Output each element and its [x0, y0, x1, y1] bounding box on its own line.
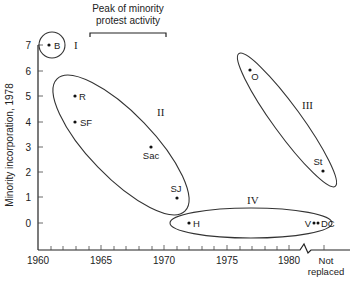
x-tick-1965: 1965 — [90, 255, 113, 266]
x-tick-1975: 1975 — [216, 255, 239, 266]
label-H: H — [193, 218, 200, 229]
point-SF — [73, 120, 76, 123]
point-R — [73, 94, 76, 97]
label-DC: DC — [321, 218, 335, 229]
chart: Peak of minority protest activity 7 6 5 … — [0, 0, 353, 281]
point-SJ — [175, 196, 178, 199]
y-tick-5: 5 — [25, 91, 31, 102]
group-I-label: I — [74, 39, 78, 51]
y-tick-1: 1 — [25, 192, 31, 203]
protest-bracket — [90, 33, 166, 37]
point-B — [47, 43, 50, 46]
y-tick-4: 4 — [25, 117, 31, 128]
label-R: R — [79, 91, 86, 102]
group-II-label: II — [157, 106, 165, 118]
y-tick-3: 3 — [25, 142, 31, 153]
y-tick-2: 2 — [25, 167, 31, 178]
y-tick-0: 0 — [25, 218, 31, 229]
x-axis: 1960 1965 1970 1975 1980 Not replaced — [27, 244, 350, 277]
label-O: O — [251, 71, 258, 82]
point-DC — [317, 222, 320, 225]
point-St — [321, 169, 324, 172]
point-V — [313, 222, 316, 225]
x-tick-not: Not — [319, 255, 334, 266]
group-IV-label: IV — [247, 194, 259, 206]
y-axis-label: Minority incorporation, 1978 — [4, 83, 15, 207]
label-V: V — [305, 218, 312, 229]
y-tick-7: 7 — [25, 40, 31, 51]
label-St: St — [314, 156, 323, 167]
annotation-line-1: Peak of minority — [92, 3, 164, 14]
y-tick-6: 6 — [25, 66, 31, 77]
group-III-label: III — [302, 99, 313, 111]
group-II-ellipse — [34, 57, 208, 234]
annotation-line-2: protest activity — [96, 15, 160, 26]
point-Sac — [149, 145, 152, 148]
x-tick-1960: 1960 — [27, 255, 50, 266]
point-H — [187, 221, 190, 224]
label-SF: SF — [80, 117, 92, 128]
x-tick-1970: 1970 — [153, 255, 176, 266]
y-axis: 7 6 5 4 3 2 1 0 Minority incorporation, … — [4, 40, 43, 250]
data-points: B R SF Sac SJ O St H V DC — [47, 40, 334, 229]
label-Sac: Sac — [143, 150, 160, 161]
x-tick-replaced: replaced — [308, 266, 344, 277]
label-B: B — [54, 40, 60, 51]
group-III-ellipse — [227, 45, 346, 194]
x-tick-1980: 1980 — [278, 255, 301, 266]
label-SJ: SJ — [170, 183, 181, 194]
